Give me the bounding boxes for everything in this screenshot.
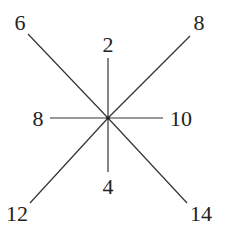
label-bottom-right: 14 — [190, 201, 212, 226]
center-point — [106, 116, 110, 120]
ray-diagram: 6 2 8 8 10 4 12 14 — [0, 0, 225, 235]
label-top-left: 6 — [15, 10, 26, 35]
label-top-right: 8 — [194, 10, 205, 35]
label-left: 8 — [33, 106, 44, 131]
label-bottom: 4 — [103, 174, 114, 199]
label-top: 2 — [103, 32, 114, 57]
label-bottom-left: 12 — [6, 201, 28, 226]
label-right: 10 — [170, 106, 192, 131]
